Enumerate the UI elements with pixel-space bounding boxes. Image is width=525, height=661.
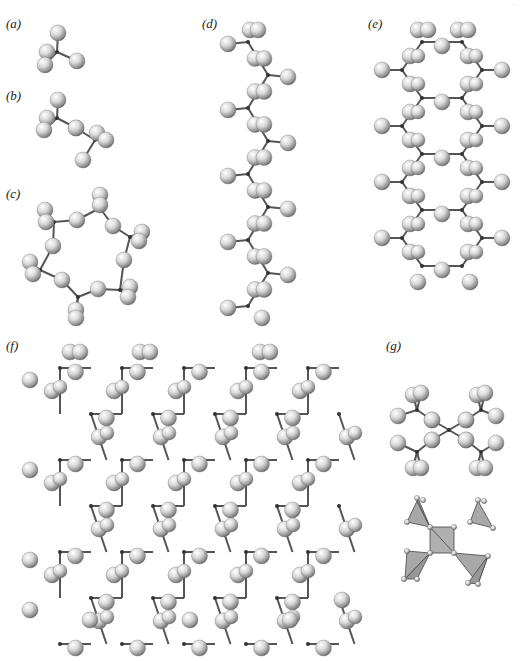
polyhedral-model: [401, 495, 495, 586]
silicate-structures-figure: [0, 0, 525, 661]
atoms-layer: [22, 22, 510, 656]
